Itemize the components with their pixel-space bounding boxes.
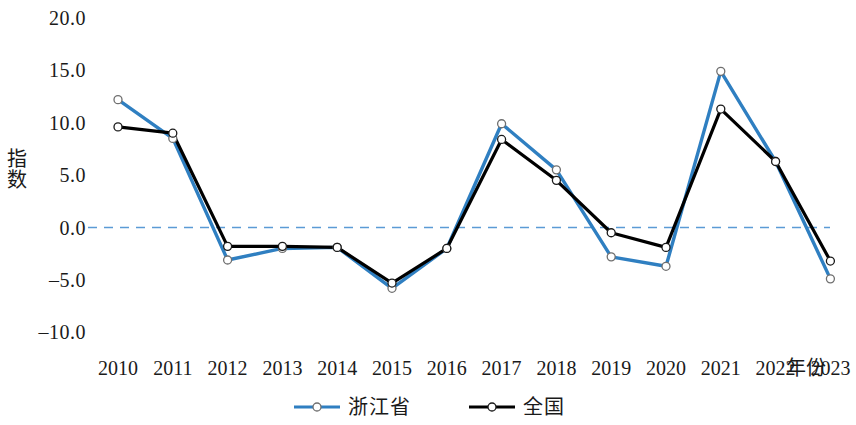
data-point-marker bbox=[717, 105, 725, 113]
x-tick-label: 2018 bbox=[526, 356, 586, 380]
data-point-marker bbox=[662, 243, 670, 251]
legend-item: 全国 bbox=[467, 396, 565, 418]
legend-item: 浙江省 bbox=[292, 396, 411, 418]
x-tick-label: 2012 bbox=[198, 356, 258, 380]
x-tick-label: 2021 bbox=[691, 356, 751, 380]
x-tick-label: 2020 bbox=[636, 356, 696, 380]
data-point-marker bbox=[717, 67, 725, 75]
data-point-marker bbox=[498, 120, 506, 128]
data-point-marker bbox=[443, 244, 451, 252]
x-tick-label: 2016 bbox=[417, 356, 477, 380]
x-tick-label: 2019 bbox=[581, 356, 641, 380]
x-tick-label: 2013 bbox=[252, 356, 312, 380]
legend-swatch-icon bbox=[467, 399, 517, 415]
data-point-marker bbox=[662, 262, 670, 270]
legend-label: 浙江省 bbox=[348, 396, 411, 418]
series-line bbox=[118, 71, 830, 288]
legend-label: 全国 bbox=[523, 396, 565, 418]
x-axis-title: 年份 bbox=[779, 356, 833, 380]
data-point-marker bbox=[169, 129, 177, 137]
legend-swatch-icon bbox=[292, 399, 342, 415]
data-point-marker bbox=[607, 253, 615, 261]
data-point-marker bbox=[114, 96, 122, 104]
data-point-marker bbox=[772, 157, 780, 165]
chart-legend: 浙江省全国 bbox=[0, 396, 856, 418]
data-point-marker bbox=[224, 256, 232, 264]
data-point-marker bbox=[826, 257, 834, 265]
x-tick-label: 2015 bbox=[362, 356, 422, 380]
data-point-marker bbox=[278, 242, 286, 250]
data-point-marker bbox=[224, 242, 232, 250]
x-tick-label: 2011 bbox=[143, 356, 203, 380]
data-point-marker bbox=[498, 135, 506, 143]
series-lines bbox=[114, 67, 834, 292]
x-tick-label: 2017 bbox=[472, 356, 532, 380]
x-tick-label: 2014 bbox=[307, 356, 367, 380]
x-tick-label: 2010 bbox=[88, 356, 148, 380]
data-point-marker bbox=[114, 123, 122, 131]
line-chart: 指数 20.015.010.05.00.0–5.0–10.0 201020112… bbox=[0, 0, 856, 425]
data-point-marker bbox=[607, 229, 615, 237]
data-point-marker bbox=[552, 176, 560, 184]
data-point-marker bbox=[552, 166, 560, 174]
data-point-marker bbox=[333, 243, 341, 251]
data-point-marker bbox=[826, 275, 834, 283]
data-point-marker bbox=[388, 279, 396, 287]
